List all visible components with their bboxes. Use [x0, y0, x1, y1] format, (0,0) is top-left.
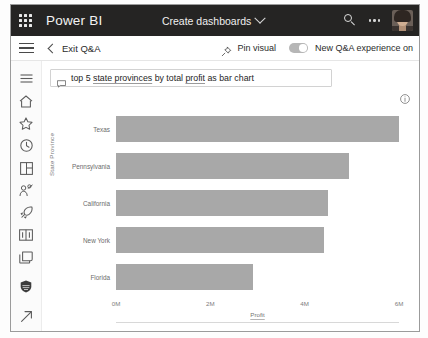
- exit-qa-label: Exit Q&A: [62, 43, 101, 54]
- exit-qa-button[interactable]: Exit Q&A: [49, 43, 101, 54]
- x-axis-tick-label: 0M: [112, 300, 121, 307]
- new-qa-experience-label: New Q&A experience on: [315, 43, 413, 53]
- app-launcher-icon[interactable]: [19, 14, 32, 27]
- query-field-state-province: state provinces: [93, 73, 152, 83]
- left-nav-rail: [11, 61, 42, 331]
- x-axis-title: Profit: [250, 311, 264, 318]
- chart-bar[interactable]: [116, 116, 399, 142]
- more-horizontal-icon[interactable]: [369, 16, 380, 24]
- sidebar-item-workspaces[interactable]: [15, 250, 37, 265]
- y-axis-tick-label: California: [83, 200, 110, 207]
- header-actions: [344, 10, 413, 31]
- toolbar-right-group: Pin visual New Q&A experience on: [221, 43, 413, 54]
- pin-visual-button[interactable]: Pin visual: [221, 43, 276, 54]
- search-icon[interactable]: [344, 14, 357, 27]
- bar-chart-visual[interactable]: State Province TexasPennsylvaniaCaliforn…: [50, 102, 412, 330]
- y-axis-tick-label: New York: [83, 237, 110, 244]
- y-axis-tick-label: Pennsylvania: [72, 162, 110, 169]
- query-middle: by total: [152, 73, 185, 83]
- chart-bar[interactable]: [116, 227, 324, 253]
- chart-bar[interactable]: [116, 153, 349, 179]
- info-icon[interactable]: [400, 90, 410, 100]
- query-suffix: as bar chart: [205, 73, 254, 83]
- hamburger-menu-icon[interactable]: [19, 43, 34, 54]
- sidebar-item-favorites[interactable]: [15, 116, 37, 131]
- x-axis: Profit 0M2M4M6M: [116, 300, 399, 324]
- sidebar-item-deployment[interactable]: [15, 279, 37, 294]
- qa-question-input[interactable]: top 5 state provinces by total profit as…: [50, 69, 332, 87]
- sidebar-item-home[interactable]: [15, 93, 37, 108]
- toggle-knob: [299, 44, 306, 51]
- y-axis-title: State Province: [48, 133, 55, 176]
- visual-header: [50, 87, 412, 102]
- y-axis-tick-label: Florida: [90, 274, 110, 281]
- sidebar-item-shared[interactable]: [15, 183, 37, 198]
- browser-window: Power BI Create dashboards: [10, 4, 420, 332]
- pin-icon: [221, 43, 232, 54]
- header-title-group[interactable]: Create dashboards: [82, 15, 343, 27]
- chart-plot-area: TexasPennsylvaniaCaliforniaNew YorkFlori…: [116, 110, 399, 296]
- sidebar-item-goals[interactable]: [15, 205, 37, 220]
- query-field-profit: profit: [185, 73, 205, 83]
- x-axis-tick-label: 2M: [206, 300, 215, 307]
- chart-bar[interactable]: [116, 190, 328, 216]
- sidebar-item-menu[interactable]: [15, 71, 37, 86]
- qa-question-text: top 5 state provinces by total profit as…: [71, 74, 254, 83]
- query-prefix: top 5: [71, 73, 93, 83]
- chart-bar[interactable]: [116, 264, 253, 290]
- y-axis-tick-label: Texas: [93, 125, 110, 132]
- sidebar-item-apps[interactable]: [15, 160, 37, 175]
- new-qa-experience-toggle[interactable]: [289, 43, 308, 53]
- chevron-left-icon: [48, 43, 58, 53]
- power-bi-qa-screen: Power BI Create dashboards: [0, 0, 428, 338]
- sidebar-item-expand[interactable]: [15, 309, 37, 324]
- chat-bubble-icon: [57, 74, 66, 82]
- page-title: Create dashboards: [162, 15, 251, 27]
- sidebar-item-learn[interactable]: [15, 228, 37, 243]
- user-avatar[interactable]: [392, 10, 413, 31]
- qa-toolbar: Exit Q&A Pin visual: [11, 36, 419, 61]
- x-axis-tick-label: 6M: [395, 300, 404, 307]
- qa-content-area: top 5 state provinces by total profit as…: [42, 61, 419, 331]
- x-axis-tick-label: 4M: [300, 300, 309, 307]
- app-header: Power BI Create dashboards: [11, 5, 419, 36]
- sidebar-item-recent[interactable]: [15, 138, 37, 153]
- chevron-down-icon[interactable]: [255, 12, 266, 23]
- pin-visual-label: Pin visual: [237, 43, 276, 53]
- x-axis-line: [116, 322, 399, 323]
